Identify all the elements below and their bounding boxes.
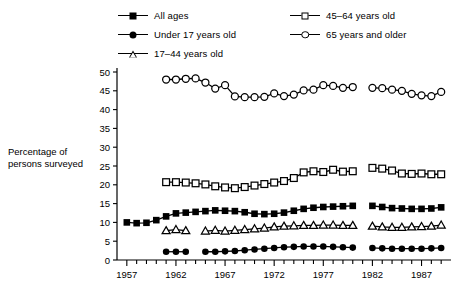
data-point bbox=[251, 94, 258, 101]
data-point bbox=[281, 209, 288, 216]
data-point bbox=[281, 244, 288, 251]
x-axis-tick-label: 1967 bbox=[214, 269, 235, 280]
data-point bbox=[340, 244, 347, 251]
data-point bbox=[241, 94, 248, 101]
data-point bbox=[428, 171, 435, 178]
data-point bbox=[173, 210, 180, 217]
data-point bbox=[330, 203, 337, 210]
data-point bbox=[124, 219, 131, 226]
data-point bbox=[369, 164, 376, 171]
series-17-44-years-old bbox=[162, 221, 445, 234]
data-point bbox=[349, 84, 356, 91]
data-point bbox=[349, 244, 356, 251]
data-point bbox=[349, 168, 356, 175]
data-point bbox=[241, 247, 248, 254]
series-65-years-and-older bbox=[163, 75, 445, 101]
data-point bbox=[163, 248, 170, 255]
data-point bbox=[398, 170, 405, 177]
data-point bbox=[310, 243, 317, 250]
data-point bbox=[399, 205, 406, 212]
data-point bbox=[212, 248, 219, 255]
data-point bbox=[438, 88, 445, 95]
data-point bbox=[143, 219, 150, 226]
data-point bbox=[379, 165, 386, 172]
data-point bbox=[408, 245, 415, 252]
data-point bbox=[320, 82, 327, 89]
x-axis-tick-label: 1962 bbox=[165, 269, 186, 280]
data-point bbox=[192, 209, 199, 216]
data-point bbox=[349, 203, 356, 210]
data-point bbox=[389, 205, 396, 212]
data-point bbox=[300, 169, 307, 176]
data-point bbox=[320, 243, 327, 250]
data-point bbox=[251, 210, 258, 217]
data-point bbox=[320, 169, 327, 176]
data-point bbox=[271, 210, 278, 217]
data-point bbox=[290, 91, 297, 98]
series-45-64-years-old bbox=[163, 164, 445, 191]
data-point bbox=[408, 170, 415, 177]
data-point bbox=[222, 184, 229, 191]
y-axis-tick-label: 50 bbox=[99, 67, 110, 78]
y-axis-tick-label: 10 bbox=[99, 217, 110, 228]
data-point bbox=[172, 226, 180, 233]
y-axis-tick-label: 20 bbox=[99, 179, 110, 190]
data-point bbox=[222, 248, 229, 255]
data-point bbox=[418, 206, 425, 213]
data-point bbox=[428, 245, 435, 252]
data-point bbox=[163, 213, 170, 220]
y-axis-tick-label: 5 bbox=[105, 236, 110, 247]
x-axis-tick-label: 1977 bbox=[313, 269, 334, 280]
data-point bbox=[261, 245, 268, 252]
data-point bbox=[290, 175, 297, 182]
data-point bbox=[291, 207, 298, 214]
data-point bbox=[369, 84, 376, 91]
data-point bbox=[281, 178, 288, 185]
x-axis-tick-label: 1982 bbox=[362, 269, 383, 280]
y-axis-tick-label: 15 bbox=[99, 198, 110, 209]
data-point bbox=[437, 221, 445, 228]
data-point bbox=[182, 248, 189, 255]
data-point bbox=[438, 171, 445, 178]
data-point bbox=[418, 170, 425, 177]
data-point bbox=[291, 244, 298, 251]
data-point bbox=[418, 92, 425, 99]
data-point bbox=[339, 84, 346, 91]
data-point bbox=[398, 87, 405, 94]
y-axis-tick-label: 40 bbox=[99, 104, 110, 115]
data-point bbox=[418, 245, 425, 252]
data-point bbox=[310, 168, 317, 175]
x-axis-tick-label: 1987 bbox=[411, 269, 432, 280]
data-point bbox=[241, 184, 248, 191]
data-point bbox=[379, 204, 386, 211]
data-point bbox=[399, 245, 406, 252]
data-point bbox=[231, 185, 238, 192]
data-point bbox=[173, 248, 180, 255]
data-point bbox=[271, 90, 278, 97]
data-point bbox=[163, 179, 170, 186]
data-point bbox=[202, 248, 209, 255]
data-point bbox=[202, 208, 209, 215]
data-point bbox=[172, 76, 179, 83]
data-point bbox=[281, 93, 288, 100]
data-point bbox=[310, 204, 317, 211]
data-point bbox=[231, 93, 238, 100]
data-point bbox=[192, 75, 199, 82]
data-point bbox=[133, 220, 140, 227]
data-point bbox=[163, 76, 170, 83]
y-axis-tick-label: 25 bbox=[99, 161, 110, 172]
data-point bbox=[261, 211, 268, 218]
x-axis-tick-label: 1957 bbox=[116, 269, 137, 280]
data-point bbox=[241, 209, 248, 216]
data-point bbox=[182, 179, 189, 186]
data-point bbox=[368, 222, 376, 229]
data-point bbox=[251, 182, 258, 189]
data-point bbox=[389, 245, 396, 252]
data-point bbox=[192, 180, 199, 187]
data-point bbox=[310, 86, 317, 93]
data-point bbox=[330, 244, 337, 251]
data-point bbox=[232, 208, 239, 215]
data-point bbox=[389, 167, 396, 174]
data-point bbox=[408, 90, 415, 97]
data-point bbox=[212, 183, 219, 190]
